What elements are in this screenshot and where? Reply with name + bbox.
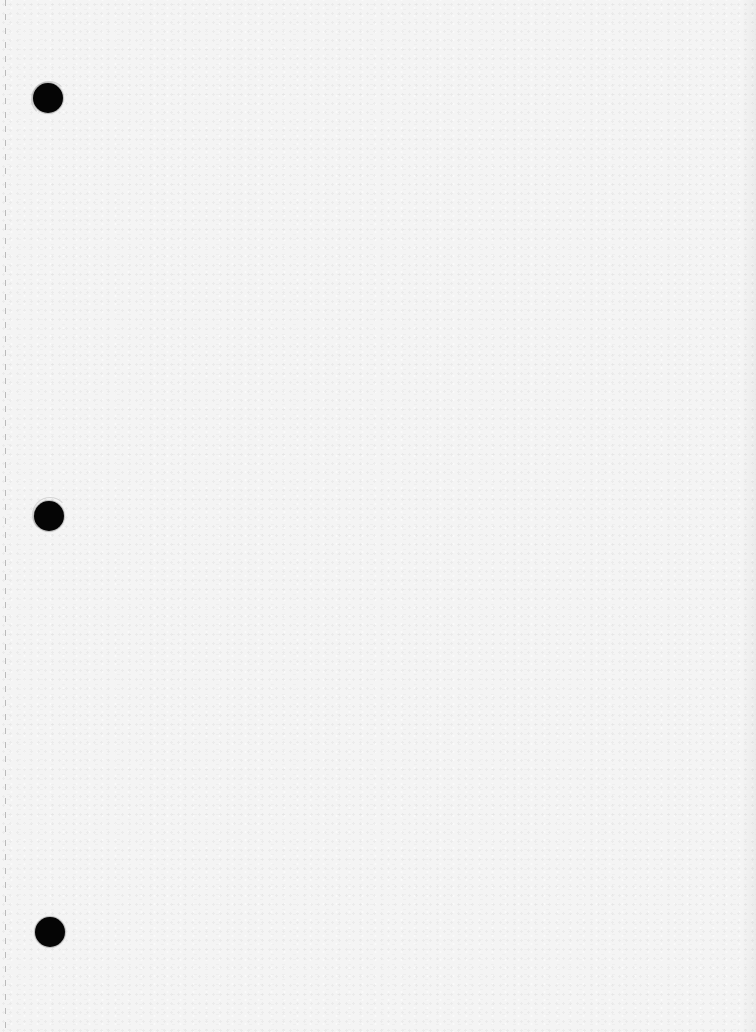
punch-hole-top [33,83,63,113]
page-edge-shadow [742,0,756,1032]
punch-hole-bottom [35,917,65,947]
blank-paper-sheet [0,0,756,1032]
punch-hole-middle [34,501,64,531]
perforation-line [5,0,6,1032]
